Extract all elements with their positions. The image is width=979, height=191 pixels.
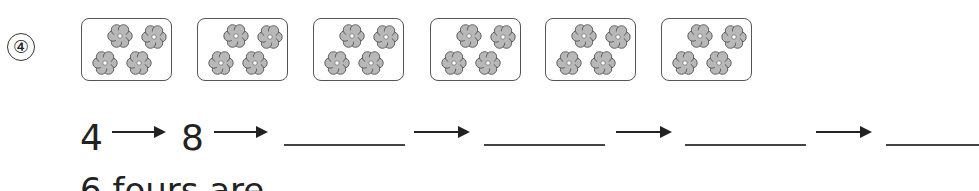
flower-group-box [197, 18, 288, 81]
flower-icon [590, 50, 616, 76]
answer-blank-4[interactable] [886, 144, 979, 146]
arrow-icon [616, 131, 670, 133]
flower-icon [571, 23, 597, 49]
flower-icon [490, 24, 516, 50]
flower-group-box [313, 18, 404, 81]
problem-number: ④ [7, 33, 35, 61]
sequence-second: 8 [181, 118, 204, 158]
flower-icon [324, 50, 350, 76]
flower-icon [556, 50, 582, 76]
flower-icon [672, 50, 698, 76]
flower-icon [223, 23, 249, 49]
answer-blank-3[interactable] [685, 144, 806, 146]
flower-group-box [545, 18, 636, 81]
arrow-icon [112, 131, 164, 133]
answer-blank-2[interactable] [484, 144, 605, 146]
flower-group-box [430, 18, 521, 81]
flower-icon [141, 24, 167, 50]
sequence-first: 4 [80, 118, 103, 158]
flower-icon [257, 24, 283, 50]
answer-blank-1[interactable] [284, 144, 405, 146]
flower-icon [107, 23, 133, 49]
flower-group-box [81, 18, 172, 81]
arrow-icon [214, 131, 266, 133]
flower-icon [373, 24, 399, 50]
flower-icon [339, 23, 365, 49]
flower-icon [456, 23, 482, 49]
flower-icon [242, 50, 268, 76]
flower-icon [208, 50, 234, 76]
arrow-icon [816, 131, 870, 133]
flower-icon [721, 24, 747, 50]
bottom-text: 6 fours are [80, 170, 264, 191]
flower-icon [441, 50, 467, 76]
flower-icon [126, 50, 152, 76]
arrow-icon [414, 131, 468, 133]
flower-icon [358, 50, 384, 76]
flower-icon [475, 50, 501, 76]
flower-icon [687, 23, 713, 49]
flower-icon [92, 50, 118, 76]
flower-icon [605, 24, 631, 50]
flower-group-box [661, 18, 752, 81]
flower-icon [706, 50, 732, 76]
